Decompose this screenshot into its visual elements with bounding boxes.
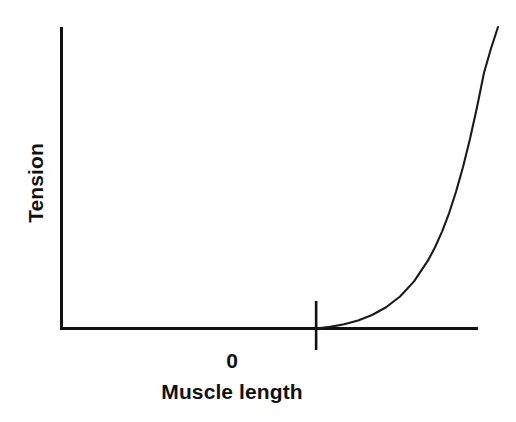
x-axis-zero-tick-label: 0 <box>226 350 238 371</box>
x-axis-label: Muscle length <box>161 381 302 402</box>
tension-curve <box>316 27 498 329</box>
chart-plot-area <box>0 0 516 422</box>
y-axis-label: Tension <box>25 108 46 258</box>
chart-figure: Tension 0 Muscle length <box>0 0 516 422</box>
